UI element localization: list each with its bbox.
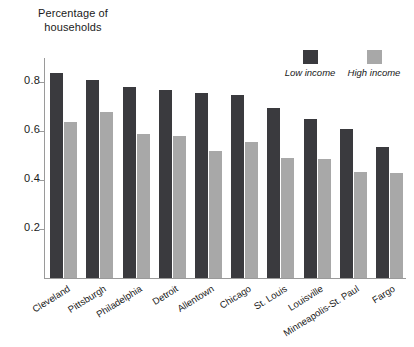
bar-group (340, 58, 367, 278)
plot-area: 0.20.40.60.8 (44, 58, 406, 278)
y-tick-label: 0.2 (24, 221, 40, 233)
y-tick: 0.6 (44, 131, 49, 132)
chart-title-line-1: Percentage of (8, 6, 138, 20)
bar-high-income (100, 112, 113, 278)
bar-group (231, 58, 258, 278)
bar-high-income (137, 134, 150, 278)
bar-low-income (267, 108, 280, 278)
chart-title-line-2: households (8, 20, 138, 34)
bar-group (267, 58, 294, 278)
bar-group (159, 58, 186, 278)
y-tick-label: 0.8 (24, 74, 40, 86)
bar-high-income (354, 172, 367, 278)
x-axis-line (44, 278, 406, 279)
y-tick: 0.2 (44, 229, 49, 230)
bar-high-income (173, 136, 186, 278)
bar-high-income (64, 122, 77, 278)
bar-high-income (281, 158, 294, 278)
bar-low-income (304, 119, 317, 278)
chart-title: Percentage of households (8, 6, 138, 34)
bar-high-income (390, 173, 403, 278)
bar-high-income (209, 151, 222, 278)
bar-group (304, 58, 331, 278)
y-tick-label: 0.6 (24, 123, 40, 135)
bar-low-income (231, 95, 244, 278)
bar-high-income (245, 142, 258, 278)
bar-group (376, 58, 403, 278)
bar-chart: Percentage of households Low income High… (0, 0, 414, 347)
bar-low-income (159, 90, 172, 278)
y-axis-line (44, 58, 45, 278)
bar-low-income (195, 93, 208, 278)
bar-group (195, 58, 222, 278)
y-tick: 0.4 (44, 180, 49, 181)
bar-high-income (318, 159, 331, 278)
bar-low-income (340, 129, 353, 278)
y-tick: 0.8 (44, 82, 49, 83)
bar-low-income (50, 73, 63, 278)
bar-group (123, 58, 150, 278)
y-tick-label: 0.4 (24, 172, 40, 184)
bar-low-income (86, 80, 99, 278)
bar-group (86, 58, 113, 278)
bar-group (50, 58, 77, 278)
bar-low-income (376, 147, 389, 278)
bar-low-income (123, 87, 136, 278)
